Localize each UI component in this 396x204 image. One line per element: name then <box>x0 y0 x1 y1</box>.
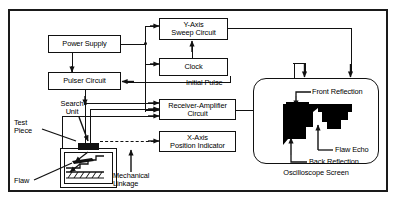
label-flaw-text: Flaw <box>14 176 29 185</box>
wire-y-axis-down-to-scope <box>351 28 352 73</box>
diagram-canvas: Power Supply Pulser Circuit Y-Axis Sweep… <box>0 0 396 204</box>
block-receiver-amplifier-line2: Circuit <box>187 110 207 118</box>
block-pulser-circuit[interactable]: Pulser Circuit <box>48 72 121 90</box>
label-front-reflection: Front Reflection <box>312 88 363 96</box>
label-oscilloscope-screen-text: Oscilloscope Screen <box>283 168 348 177</box>
block-pulser-circuit-label: Pulser Circuit <box>63 77 106 85</box>
label-mechanical-linkage-line2: Linkage <box>113 179 138 188</box>
wire-bus-to-clock <box>145 64 154 65</box>
block-y-axis-sweep-circuit[interactable]: Y-Axis Sweep Circuit <box>159 18 228 40</box>
label-search-unit-line2: Unit <box>66 107 79 116</box>
label-back-reflection: Back Reflection <box>309 158 359 166</box>
block-y-axis-sweep-line2: Sweep Circuit <box>171 29 215 37</box>
block-clock-label: Clock <box>185 63 203 71</box>
wire-bus-to-y-axis <box>145 26 154 27</box>
label-test-piece: Test Piece <box>14 119 32 135</box>
label-mechanical-linkage: Mechanical Linkage <box>113 172 149 188</box>
label-oscilloscope-screen: Oscilloscope Screen <box>253 169 379 177</box>
block-x-axis-line2: Position Indicator <box>170 142 225 150</box>
block-receiver-amplifier-circuit[interactable]: Receiver-Amplifier Circuit <box>159 99 236 120</box>
block-power-supply-label: Power Supply <box>62 40 106 48</box>
wire-probe-line-2 <box>90 109 154 110</box>
label-flaw: Flaw <box>14 177 29 185</box>
wire-mechanical-linkage-dashed <box>100 141 154 142</box>
label-flaw-echo: Flaw Echo <box>335 146 369 154</box>
wire-clock-down-to-feedback <box>230 76 231 82</box>
label-initial-pulse: Initial Pulse <box>186 79 223 87</box>
wire-clock-to-y-axis <box>192 45 193 58</box>
block-power-supply[interactable]: Power Supply <box>48 35 121 53</box>
label-initial-pulse-text: Initial Pulse <box>186 78 223 87</box>
label-search-unit: Search Unit <box>50 100 94 116</box>
wire-power-supply-out <box>121 44 146 45</box>
wire-power-bus-vertical <box>145 26 146 112</box>
search-unit-transducer <box>78 143 99 150</box>
wire-probe-riser-c <box>62 116 63 148</box>
label-test-piece-line2: Piece <box>14 126 32 135</box>
label-back-reflection-text: Back Reflection <box>309 157 359 166</box>
label-flaw-echo-text: Flaw Echo <box>335 145 369 154</box>
test-piece-cavity <box>64 152 113 184</box>
wire-receiver-down-to-scope <box>305 63 306 73</box>
test-piece-body <box>60 148 117 188</box>
wire-probe-line-1 <box>85 103 154 104</box>
block-clock[interactable]: Clock <box>159 58 228 76</box>
wire-y-axis-out <box>228 28 352 29</box>
block-x-axis-position-indicator[interactable]: X-Axis Position Indicator <box>159 131 236 152</box>
label-front-reflection-text: Front Reflection <box>312 87 363 96</box>
wire-power-to-pulser <box>72 53 73 72</box>
